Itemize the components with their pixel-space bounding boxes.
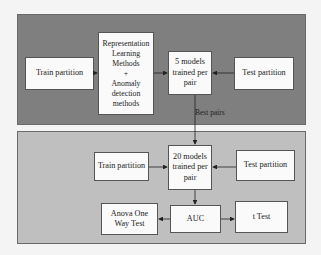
edges (0, 0, 321, 255)
